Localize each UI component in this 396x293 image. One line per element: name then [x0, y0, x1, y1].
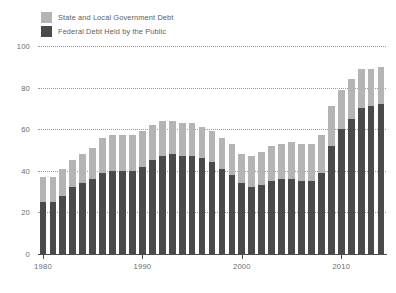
- bar-group[interactable]: [159, 46, 166, 254]
- bar-group[interactable]: [288, 46, 295, 254]
- bar-segment-federal: [69, 187, 76, 254]
- bar-group[interactable]: [169, 46, 176, 254]
- bar-group[interactable]: [238, 46, 245, 254]
- bar-group[interactable]: [298, 46, 305, 254]
- bar-group[interactable]: [278, 46, 285, 254]
- bar-segment-federal: [209, 162, 216, 254]
- bar-segment-federal: [298, 181, 305, 254]
- bar-segment-state-local: [318, 135, 325, 172]
- bar-group[interactable]: [268, 46, 275, 254]
- bar-segment-state-local: [348, 79, 355, 119]
- bar-group[interactable]: [358, 46, 365, 254]
- bar-group[interactable]: [99, 46, 106, 254]
- x-axis-line: [38, 254, 387, 255]
- legend-label-federal: Federal Debt Held by the Public: [58, 26, 166, 37]
- bar-segment-state-local: [268, 146, 275, 181]
- bar-group[interactable]: [89, 46, 96, 254]
- bar-group[interactable]: [258, 46, 265, 254]
- bar-group[interactable]: [79, 46, 86, 254]
- bar-segment-state-local: [288, 142, 295, 179]
- x-axis-tick-label: 2000: [233, 262, 251, 271]
- bar-group[interactable]: [50, 46, 57, 254]
- bar-group[interactable]: [318, 46, 325, 254]
- bar-segment-federal: [248, 187, 255, 254]
- bar-segment-state-local: [278, 144, 285, 179]
- bar-segment-federal: [368, 106, 375, 254]
- bar-group[interactable]: [248, 46, 255, 254]
- bar-group[interactable]: [348, 46, 355, 254]
- y-axis: 020406080100: [0, 46, 30, 254]
- bar-segment-state-local: [179, 123, 186, 156]
- bar-segment-federal: [119, 171, 126, 254]
- chart-container: State and Local Government Debt Federal …: [0, 0, 396, 293]
- bar-segment-federal: [169, 154, 176, 254]
- bar-group[interactable]: [59, 46, 66, 254]
- bar-segment-federal: [308, 181, 315, 254]
- bar-segment-federal: [278, 179, 285, 254]
- x-axis-tick: [341, 254, 342, 259]
- plot-area: 1980199020002010: [38, 46, 386, 254]
- bar-group[interactable]: [149, 46, 156, 254]
- bar-segment-federal: [109, 171, 116, 254]
- bar-group[interactable]: [129, 46, 136, 254]
- bar-segment-state-local: [149, 125, 156, 160]
- bar-group[interactable]: [229, 46, 236, 254]
- bar-segment-state-local: [139, 131, 146, 166]
- bar-segment-state-local: [358, 69, 365, 109]
- bar-group[interactable]: [69, 46, 76, 254]
- bar-segment-state-local: [199, 127, 206, 158]
- bar-segment-state-local: [79, 154, 86, 183]
- bar-segment-federal: [149, 160, 156, 254]
- bar-segment-federal: [268, 181, 275, 254]
- bar-segment-state-local: [328, 106, 335, 146]
- bar-segment-state-local: [109, 135, 116, 170]
- bar-group[interactable]: [199, 46, 206, 254]
- bar-segment-state-local: [159, 121, 166, 156]
- bar-segment-state-local: [258, 152, 265, 185]
- bar-segment-federal: [328, 146, 335, 254]
- bar-segment-federal: [199, 158, 206, 254]
- bar-segment-state-local: [238, 154, 245, 183]
- bar-group[interactable]: [119, 46, 126, 254]
- bar-segment-federal: [348, 119, 355, 254]
- legend-item-state-local[interactable]: State and Local Government Debt: [41, 11, 173, 23]
- bar-segment-federal: [219, 169, 226, 254]
- bar-segment-state-local: [59, 169, 66, 196]
- bar-segment-state-local: [189, 123, 196, 156]
- bar-segment-state-local: [169, 121, 176, 154]
- bar-group[interactable]: [338, 46, 345, 254]
- legend-item-federal[interactable]: Federal Debt Held by the Public: [41, 25, 173, 37]
- bar-segment-state-local: [50, 177, 57, 202]
- bar-segment-state-local: [368, 69, 375, 106]
- chart-legend: State and Local Government Debt Federal …: [41, 11, 173, 39]
- bar-segment-state-local: [248, 156, 255, 187]
- bar-segment-state-local: [378, 67, 385, 104]
- bar-segment-federal: [318, 173, 325, 254]
- bar-group[interactable]: [40, 46, 47, 254]
- bar-segment-state-local: [69, 160, 76, 187]
- bar-segment-federal: [129, 171, 136, 254]
- legend-label-state-local: State and Local Government Debt: [58, 12, 173, 23]
- bar-group[interactable]: [139, 46, 146, 254]
- bar-group[interactable]: [109, 46, 116, 254]
- bar-group[interactable]: [219, 46, 226, 254]
- bar-group[interactable]: [189, 46, 196, 254]
- bar-segment-federal: [378, 104, 385, 254]
- bar-group[interactable]: [378, 46, 385, 254]
- bar-segment-state-local: [129, 135, 136, 170]
- legend-swatch-state-local: [41, 12, 52, 23]
- bar-segment-state-local: [209, 131, 216, 162]
- legend-swatch-federal: [41, 26, 52, 37]
- bar-group[interactable]: [368, 46, 375, 254]
- bar-segment-state-local: [89, 148, 96, 179]
- bar-group[interactable]: [179, 46, 186, 254]
- bar-group[interactable]: [308, 46, 315, 254]
- x-axis-tick: [242, 254, 243, 259]
- bar-segment-federal: [139, 167, 146, 254]
- bar-segment-federal: [79, 183, 86, 254]
- bar-segment-federal: [59, 196, 66, 254]
- bar-group[interactable]: [209, 46, 216, 254]
- bar-group[interactable]: [328, 46, 335, 254]
- bar-segment-federal: [50, 202, 57, 254]
- y-axis-tick-label: 100: [4, 42, 30, 51]
